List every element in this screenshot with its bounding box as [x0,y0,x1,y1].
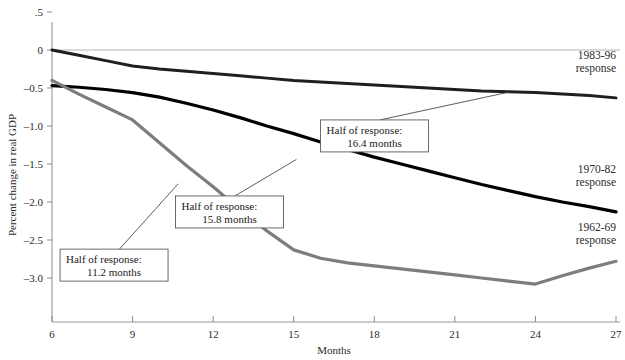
y-tick-label: .5 [35,6,44,18]
x-axis-title: Months [317,344,351,356]
line-chart: .50–0.5–1.0–1.5–2.0–2.5–3.06912151821242… [0,0,625,360]
label-1970-82-line1: 1970-82 [578,163,617,175]
y-tick-label: –2.5 [23,234,44,246]
y-tick-label: –1.5 [23,158,44,170]
annotation-1983-96-leader [380,92,509,120]
chart-container: .50–0.5–1.0–1.5–2.0–2.5–3.06912151821242… [0,0,625,360]
x-tick-label: 15 [288,328,300,340]
annotation-1983-96-line1: Half of response: [327,124,403,136]
series-line-0 [52,50,616,98]
y-tick-label: –0.5 [23,82,44,94]
annotation-1962-69-line1: Half of response: [66,253,142,265]
x-tick-label: 6 [49,328,55,340]
x-tick-label: 27 [611,328,623,340]
annotation-1962-69-leader [119,184,178,249]
y-tick-label: –1.0 [23,120,44,132]
x-tick-label: 12 [208,328,219,340]
y-tick-label: 0 [38,44,44,56]
annotation-1983-96-line2: 16.4 months [347,137,401,149]
x-tick-label: 21 [449,328,460,340]
annotation-1962-69-line2: 11.2 months [87,266,141,278]
label-1962-69-line2: response [576,234,616,247]
x-tick-label: 18 [369,328,381,340]
label-1983-96-line2: response [576,62,616,75]
annotation-1970-82-leader [235,159,296,195]
annotation-1970-82-line2: 15.8 months [202,213,256,225]
x-tick-label: 9 [130,328,136,340]
label-1983-96-line1: 1983-96 [578,49,617,61]
x-tick-label: 24 [530,328,542,340]
y-tick-label: –2.0 [23,196,44,208]
annotation-1970-82-line1: Half of response: [182,200,258,212]
y-tick-label: –3.0 [23,272,44,284]
label-1962-69-line1: 1962-69 [578,221,617,233]
label-1970-82-line2: response [576,176,616,189]
y-axis-title: Percent change in real GDP [6,114,18,236]
